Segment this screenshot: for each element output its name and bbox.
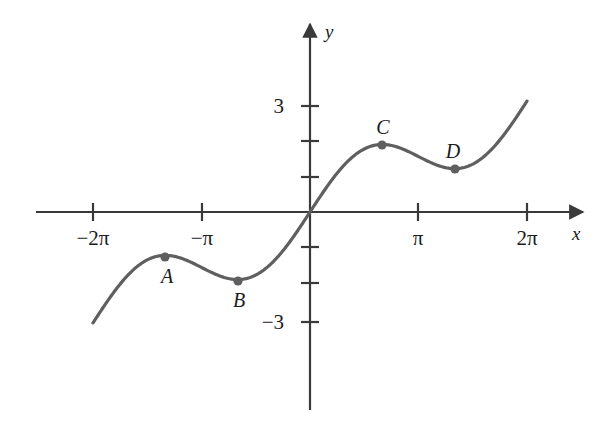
x-tick-label: −π	[191, 228, 213, 249]
point-label-a: A	[161, 266, 173, 286]
function-graph-figure: y x −2π−ππ2π3−3ABCD	[0, 0, 613, 432]
y-tick-label: 3	[274, 96, 285, 117]
plot-canvas	[0, 0, 613, 432]
marked-point-b	[233, 276, 242, 285]
marked-point-a	[160, 252, 169, 261]
axes-group	[36, 24, 583, 410]
y-axis-label: y	[325, 22, 333, 41]
y-tick-label: −3	[262, 312, 284, 333]
marked-point-c	[377, 140, 386, 149]
point-label-b: B	[233, 290, 245, 310]
marked-point-d	[450, 164, 459, 173]
x-tick-label: π	[413, 228, 424, 249]
x-tick-label: −2π	[77, 228, 110, 249]
x-tick-label: 2π	[516, 228, 537, 249]
point-label-d: D	[446, 141, 460, 161]
point-label-c: C	[376, 117, 389, 137]
x-axis-label: x	[572, 224, 580, 243]
